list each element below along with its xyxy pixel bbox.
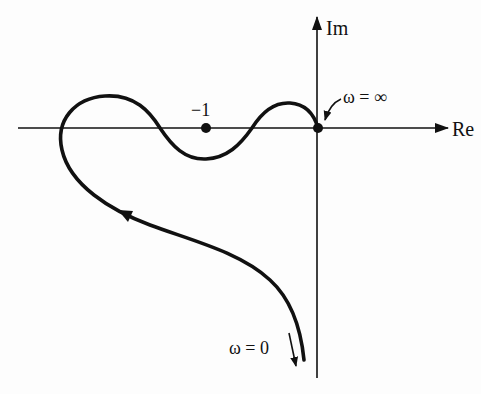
imaginary-axis-label: Im xyxy=(326,18,348,38)
plot-area xyxy=(0,0,481,394)
omega-zero-pointer xyxy=(289,333,296,366)
critical-point-label: −1 xyxy=(191,101,210,119)
omega-infinity-pointer xyxy=(325,99,341,120)
critical-point-dot xyxy=(201,123,211,133)
nyquist-curve xyxy=(61,96,318,360)
omega-zero-label: ω = 0 xyxy=(229,339,269,357)
omega-infinity-label: ω = ∞ xyxy=(343,88,387,106)
nyquist-diagram: Im Re −1 ω = ∞ ω = 0 xyxy=(0,0,481,394)
origin-dot xyxy=(313,123,323,133)
real-axis-label: Re xyxy=(452,119,474,139)
